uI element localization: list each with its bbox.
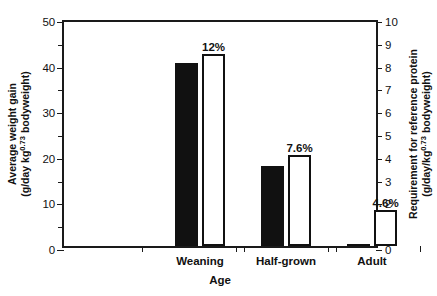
y-axis-right-tick — [376, 90, 382, 91]
y-axis-right-title-line2-post: bodyweight) — [420, 71, 432, 136]
bar-protein-requirement: 7.6% — [288, 155, 311, 246]
y-axis-right-tick — [376, 68, 382, 69]
y-axis-left-tick-label: 20 — [42, 153, 55, 165]
y-axis-right-tick-label: 4 — [385, 153, 391, 165]
plot-area: 01020304050 012345678910 12%7.6%4.6% Wea… — [62, 20, 378, 248]
y-axis-right-tick-label: 3 — [385, 176, 391, 188]
y-axis-right-tick — [376, 22, 382, 23]
y-axis-right-title-line1: Requirement for reference protein — [407, 49, 419, 219]
y-axis-right-tick-label: 10 — [385, 16, 398, 28]
x-axis-tick — [142, 246, 143, 252]
y-axis-right-title-line2-pre: (g/day/kg — [420, 151, 432, 197]
y-axis-right-tick-label: 9 — [385, 39, 391, 51]
bar-weight-gain — [347, 244, 370, 246]
y-axis-left-tick-label: 40 — [42, 62, 55, 74]
bar-weight-gain — [261, 166, 284, 246]
y-axis-left-tick-label: 0 — [49, 244, 55, 256]
y-axis-left-tick — [57, 22, 64, 23]
y-axis-left-title: Average weight gain (g/day kg0.73 bodywe… — [2, 20, 36, 248]
y-axis-right-tick — [376, 45, 382, 46]
y-axis-left-tick — [58, 227, 64, 228]
bar-percentage-label: 12% — [202, 41, 225, 53]
x-axis-category-weaning: Weaning — [176, 255, 224, 267]
y-axis-left-tick-label: 50 — [42, 16, 55, 28]
bar-protein-requirement: 12% — [202, 54, 225, 246]
y-axis-right-tick-label: 8 — [385, 62, 391, 74]
x-axis-tick — [420, 246, 421, 252]
y-axis-left-tick-label: 10 — [42, 198, 55, 210]
y-axis-right-tick — [376, 113, 382, 114]
y-axis-left-tick — [57, 113, 64, 114]
chart-figure: Average weight gain (g/day kg0.73 bodywe… — [0, 0, 437, 296]
y-axis-left-tick — [58, 90, 64, 91]
x-axis-category-half-grown: Half-grown — [256, 255, 316, 267]
x-axis-tick — [236, 246, 237, 252]
y-axis-left-tick — [58, 182, 64, 183]
y-axis-left-title-line2-post: bodyweight) — [19, 71, 31, 136]
y-axis-right-tick — [376, 250, 382, 251]
x-axis-tick — [244, 246, 245, 252]
y-axis-right-tick-label: 7 — [385, 84, 391, 96]
bar-percentage-label: 7.6% — [286, 142, 312, 154]
y-axis-left-tick — [57, 250, 64, 251]
y-axis-right-title: Requirement for reference protein (g/day… — [403, 20, 437, 248]
y-axis-left-title-exponent: 0.73 — [18, 136, 27, 151]
y-axis-left-title-line2-pre: (g/day kg — [19, 151, 31, 197]
y-axis-left-tick — [57, 204, 64, 205]
x-axis-tick — [328, 246, 329, 252]
y-axis-left-tick — [57, 159, 64, 160]
bar-protein-requirement: 4.6% — [374, 210, 397, 246]
bar-weight-gain — [175, 63, 198, 246]
x-axis-category-adult: Adult — [357, 255, 386, 267]
y-axis-left-tick — [57, 68, 64, 69]
y-axis-left-tick-label: 30 — [42, 107, 55, 119]
y-axis-left-title-line1: Average weight gain — [6, 83, 18, 185]
y-axis-right-title-exponent: 0.73 — [419, 136, 428, 151]
y-axis-right-tick-label: 5 — [385, 130, 391, 142]
x-axis-tick — [336, 246, 337, 252]
y-axis-left-tick — [58, 45, 64, 46]
y-axis-right-tick-label: 6 — [385, 107, 391, 119]
y-axis-right-tick — [376, 159, 382, 160]
x-axis-title: Age — [62, 274, 378, 286]
y-axis-right-tick — [376, 182, 382, 183]
y-axis-right-tick — [376, 136, 382, 137]
bar-percentage-label: 4.6% — [372, 197, 398, 209]
y-axis-left-tick — [58, 136, 64, 137]
